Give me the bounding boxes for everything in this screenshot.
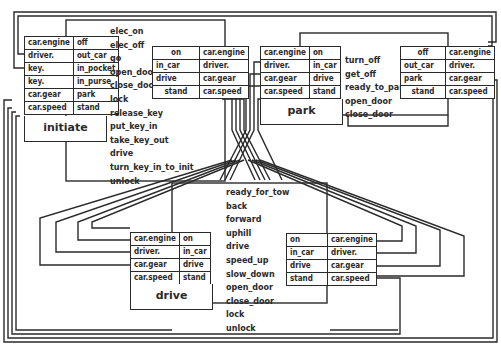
var-cell: driver. [261,60,310,73]
var-cell: car.engine [200,47,249,60]
event-item[interactable]: drive [110,147,194,161]
value-cell: on [287,234,328,247]
value-cell: out_car [401,60,446,73]
table-row: standcar.speed [153,86,249,99]
initiate-variable-table: car.engineoff driver.out_car key.in_pock… [24,36,119,115]
table-row: car.gearpark [25,89,119,102]
var-cell: car.gear [261,73,310,86]
table-row: key.in_purse [25,76,119,89]
drive-variable-table: car.engineon driver.in_car car.geardrive… [130,232,211,285]
table-row: oncar.engine [153,47,249,60]
event-item[interactable]: drive [226,240,289,254]
transition-table-park-to-initiate: offcar.engine out_cardriver. parkcar.gea… [400,46,495,99]
event-item[interactable]: take_key_out [110,134,194,148]
var-cell: car.speed [25,102,74,115]
value-cell: on [309,47,340,60]
var-cell: driver. [446,60,495,73]
table-row: car.speedstand [261,86,341,99]
value-cell: drive [179,259,210,272]
state-name: park [261,104,342,117]
event-item[interactable]: lock [226,308,289,322]
event-item[interactable]: release_key [110,107,194,121]
var-cell: car.speed [261,86,310,99]
transition-table-drive-to-drive: oncar.engine in_cardriver. drivecar.gear… [286,233,377,286]
table-row: driver.in_car [261,60,341,73]
value-cell: stand [287,273,328,286]
value-cell: stand [309,86,340,99]
event-item[interactable]: slow_down [226,268,289,282]
var-cell: car.speed [446,86,495,99]
table-row: drivecar.gear [153,73,249,86]
initiate-name-box: initiate [24,116,107,142]
table-row: car.speedstand [25,102,119,115]
state-name: initiate [25,121,106,134]
event-item[interactable]: open_door [226,281,289,295]
var-cell: car.engine [261,47,310,60]
var-cell: car.gear [446,73,495,86]
value-cell: park [401,73,446,86]
var-cell: car.gear [25,89,74,102]
value-cell: stand [153,86,200,99]
event-item[interactable]: close_door [226,295,289,309]
var-cell: car.engine [25,37,74,50]
var-cell: driver. [200,60,249,73]
event-item[interactable]: get_off [345,68,408,82]
value-cell: drive [309,73,340,86]
state-name: drive [131,289,212,302]
event-item[interactable]: close_door [345,108,408,122]
table-row: driver.out_car [25,50,119,63]
table-row: car.speedstand [131,272,211,285]
table-row: out_cardriver. [401,60,495,73]
value-cell: on [179,233,210,246]
value-cell: off [401,47,446,60]
table-row: standcar.speed [287,273,377,286]
table-row: car.engineoff [25,37,119,50]
value-cell: in_car [179,246,210,259]
event-item[interactable]: back [226,200,289,214]
var-cell: car.engine [446,47,495,60]
value-cell: in_car [309,60,340,73]
var-cell: car.speed [200,86,249,99]
var-cell: driver. [25,50,74,63]
value-cell: stand [179,272,210,285]
event-item[interactable]: speed_up [226,254,289,268]
table-row: in_cardriver. [153,60,249,73]
park-variable-table: car.engineon driver.in_car car.geardrive… [260,46,341,99]
value-cell: in_car [153,60,200,73]
event-item[interactable]: put_key_in [110,120,194,134]
event-item[interactable]: turn_off [345,54,408,68]
var-cell: key. [25,76,74,89]
var-cell: car.speed [131,272,180,285]
event-item[interactable]: open_door [345,95,408,109]
table-row: driver.in_car [131,246,211,259]
park-name-box: park [260,99,343,125]
table-row: car.geardrive [131,259,211,272]
table-row: car.engineon [261,47,341,60]
table-row: standcar.speed [401,86,495,99]
table-row: key.in_pocket [25,63,119,76]
event-item[interactable]: unlock [110,175,194,189]
drive-name-box: drive [130,284,213,310]
drive-event-list: ready_for_tow back forward uphill drive … [226,186,289,336]
event-item[interactable]: elec_on [110,25,194,39]
var-cell: car.engine [328,234,377,247]
var-cell: driver. [131,246,180,259]
event-item[interactable]: unlock [226,322,289,336]
event-item[interactable]: turn_key_in_to_init [110,161,194,175]
value-cell: on [153,47,200,60]
table-row: car.geardrive [261,73,341,86]
park-event-list: turn_off get_off ready_to_park open_door… [345,54,408,122]
value-cell: drive [153,73,200,86]
var-cell: car.gear [200,73,249,86]
table-row: drivecar.gear [287,260,377,273]
event-item[interactable]: uphill [226,227,289,241]
var-cell: car.gear [131,259,180,272]
var-cell: car.speed [328,273,377,286]
event-item[interactable]: ready_to_park [345,81,408,95]
value-cell: drive [287,260,328,273]
value-cell: in_car [287,247,328,260]
var-cell: key. [25,63,74,76]
table-row: car.engineon [131,233,211,246]
event-item[interactable]: ready_for_tow [226,186,289,200]
event-item[interactable]: forward [226,213,289,227]
